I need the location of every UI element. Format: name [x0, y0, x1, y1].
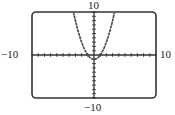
graph-window: [0, 0, 175, 115]
axes: [32, 12, 156, 98]
